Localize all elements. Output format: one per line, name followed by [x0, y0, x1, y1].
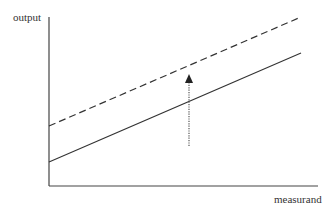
- y-axis-label: output: [13, 12, 41, 23]
- shifted-response-line: [49, 17, 301, 126]
- x-axis-label: measurand: [274, 194, 322, 205]
- offset-shift-diagram: output measurand: [0, 0, 332, 212]
- diagram-canvas: [0, 0, 332, 212]
- arrow-up-icon: [185, 74, 193, 83]
- original-response-line: [49, 53, 301, 162]
